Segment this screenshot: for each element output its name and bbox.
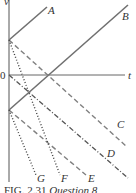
line-f bbox=[9, 40, 60, 175]
line-g bbox=[9, 110, 36, 175]
line-d bbox=[9, 75, 128, 178]
line-c-label: C bbox=[117, 118, 125, 130]
line-b-label: B bbox=[122, 10, 129, 22]
line-c bbox=[9, 40, 126, 146]
figure-caption-text: Question 8 bbox=[49, 184, 97, 193]
line-a-label: A bbox=[47, 4, 55, 16]
t-axis-label: t bbox=[128, 69, 132, 81]
origin-label: 0 bbox=[0, 69, 6, 81]
line-f-label: F bbox=[60, 172, 68, 184]
v-axis-label: v bbox=[4, 0, 9, 7]
line-g-label: G bbox=[37, 172, 45, 184]
velocity-time-diagram: v t 0 A B C D E F G bbox=[0, 0, 136, 193]
figure-number: FIG. 2.31 bbox=[4, 184, 46, 193]
line-e bbox=[9, 110, 86, 175]
line-e-label: E bbox=[87, 172, 95, 184]
line-a bbox=[9, 7, 47, 40]
figure-caption: FIG. 2.31 Question 8 bbox=[4, 184, 136, 193]
line-d-label: D bbox=[106, 147, 115, 159]
